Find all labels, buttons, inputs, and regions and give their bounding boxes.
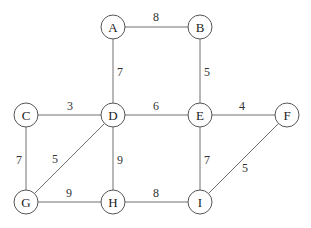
node-label: D [108,108,117,123]
node-i: I [188,190,212,214]
edge-weight-c-d: 3 [67,99,73,113]
node-e: E [188,103,212,127]
edge-weight-e-f: 4 [239,99,245,113]
edge-weight-h-i: 8 [153,186,159,200]
node-b: B [188,15,212,39]
edge-weight-b-e: 5 [204,65,210,79]
node-label: G [21,195,30,210]
node-h: H [101,190,125,214]
edge-weight-e-i: 7 [204,153,210,167]
node-a: A [101,15,125,39]
node-label: H [108,195,117,210]
node-label: A [108,20,118,35]
edge-weight-g-d: 5 [52,152,58,166]
node-d: D [101,103,125,127]
node-label: E [196,108,204,123]
node-label: C [22,108,31,123]
edge-f-i [200,115,287,202]
node-label: I [198,195,202,210]
edge-weight-a-b: 8 [153,10,159,24]
node-label: F [283,108,290,123]
graph-diagram: 8753647597598 ABCDEFGHI [0,0,311,228]
node-g: G [14,190,38,214]
edges-layer [26,27,287,202]
edge-weight-d-h: 9 [117,153,123,167]
node-c: C [14,103,38,127]
edge-weight-d-e: 6 [153,99,159,113]
node-f: F [275,103,299,127]
edge-weight-f-i: 5 [242,161,248,175]
node-label: B [196,20,205,35]
edge-weights-layer: 8753647597598 [16,10,248,200]
edge-weight-c-g: 7 [16,153,22,167]
edge-weight-a-d: 7 [117,65,123,79]
edge-weight-g-h: 9 [66,186,72,200]
